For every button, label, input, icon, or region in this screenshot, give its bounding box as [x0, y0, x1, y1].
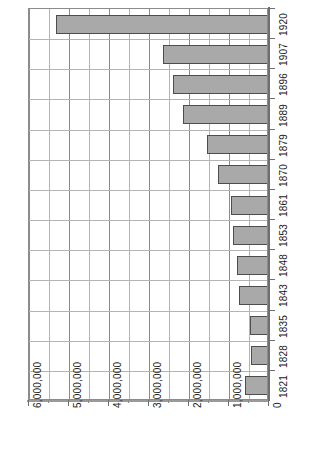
- category-label-1821: 1821: [278, 375, 289, 398]
- value-axis-label: 6,000,000: [32, 362, 43, 408]
- bar-1828: [251, 346, 268, 365]
- bar-1907: [163, 45, 268, 64]
- category-label-1870: 1870: [278, 164, 289, 187]
- gridline-horizontal: [29, 39, 267, 40]
- value-axis-label: 0: [272, 402, 283, 408]
- gridline-horizontal: [29, 99, 267, 100]
- category-axis-line: [268, 7, 270, 401]
- bar-1879: [207, 135, 268, 154]
- bar-1889: [183, 105, 268, 124]
- value-tick-minor: [128, 400, 129, 403]
- gridline-horizontal: [29, 190, 267, 191]
- category-label-1879: 1879: [278, 134, 289, 157]
- bar-1848: [237, 256, 268, 275]
- value-tick-major: [28, 400, 29, 406]
- bar-1920: [56, 15, 268, 34]
- plot-area: [28, 8, 268, 400]
- category-tick: [270, 8, 275, 9]
- category-tick: [270, 310, 275, 311]
- gridline-horizontal: [29, 69, 267, 70]
- category-tick: [270, 68, 275, 69]
- bar-1870: [218, 165, 268, 184]
- gridline-horizontal: [29, 130, 267, 131]
- category-tick: [270, 340, 275, 341]
- category-label-1853: 1853: [278, 224, 289, 247]
- value-tick-major: [148, 400, 149, 406]
- value-tick-major: [108, 400, 109, 406]
- category-tick: [270, 219, 275, 220]
- gridline-horizontal: [29, 341, 267, 342]
- category-label-1896: 1896: [278, 73, 289, 96]
- bar-1821: [245, 376, 268, 395]
- category-tick: [270, 159, 275, 160]
- category-tick: [270, 279, 275, 280]
- value-axis-label: 4,000,000: [112, 362, 123, 408]
- value-axis-label: 2,000,000: [192, 362, 203, 408]
- category-tick: [270, 98, 275, 99]
- bar-1843: [239, 286, 268, 305]
- value-axis-label: 1,000,000: [232, 362, 243, 408]
- category-label-1907: 1907: [278, 43, 289, 66]
- category-label-1920: 1920: [278, 13, 289, 36]
- gridline-horizontal: [29, 160, 267, 161]
- category-tick: [270, 249, 275, 250]
- value-tick-minor: [88, 400, 89, 403]
- category-label-1835: 1835: [278, 315, 289, 338]
- value-tick-major: [188, 400, 189, 406]
- category-label-1848: 1848: [278, 254, 289, 277]
- gridline-horizontal: [29, 280, 267, 281]
- value-tick-minor: [208, 400, 209, 403]
- category-label-1843: 1843: [278, 284, 289, 307]
- bar-1853: [233, 226, 268, 245]
- category-label-1889: 1889: [278, 104, 289, 127]
- category-label-1828: 1828: [278, 345, 289, 368]
- gridline-horizontal: [29, 311, 267, 312]
- bar-chart: 01,000,0002,000,0003,000,0004,000,0005,0…: [0, 0, 309, 467]
- gridline-horizontal: [29, 250, 267, 251]
- value-tick-major: [68, 400, 69, 406]
- category-label-1861: 1861: [278, 194, 289, 217]
- bar-1896: [173, 75, 268, 94]
- gridline-horizontal: [29, 220, 267, 221]
- value-axis-label: 5,000,000: [72, 362, 83, 408]
- value-axis-label: 3,000,000: [152, 362, 163, 408]
- category-tick: [270, 370, 275, 371]
- value-tick-minor: [48, 400, 49, 403]
- category-tick: [270, 38, 275, 39]
- value-tick-major: [228, 400, 229, 406]
- value-tick-minor: [168, 400, 169, 403]
- category-tick: [270, 129, 275, 130]
- category-axis: 1821182818351843184818531861187018791889…: [268, 8, 309, 400]
- bar-1861: [231, 196, 268, 215]
- category-tick: [270, 189, 275, 190]
- bar-1835: [250, 316, 268, 335]
- value-tick-minor: [248, 400, 249, 403]
